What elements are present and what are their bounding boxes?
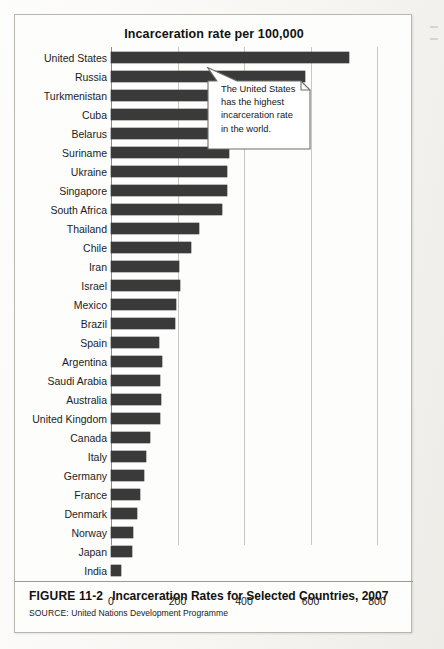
bar-row: Thailand [15, 221, 413, 240]
bar-row: South Africa [15, 202, 413, 221]
bar-thailand [111, 223, 199, 234]
bar-row: Canada [15, 430, 413, 449]
source-prefix: SOURCE: [29, 608, 69, 618]
category-label-argentina: Argentina [15, 356, 107, 369]
bar-united-kingdom [111, 413, 160, 424]
bar-spain [111, 337, 159, 348]
bar-saudi-arabia [111, 375, 160, 386]
page-edge-mark [430, 26, 438, 28]
bar-row: Australia [15, 392, 413, 411]
bar-row: India [15, 563, 413, 582]
category-label-saudi-arabia: Saudi Arabia [15, 375, 107, 388]
bar-ukraine [111, 166, 227, 177]
bar-row: Spain [15, 335, 413, 354]
category-label-brazil: Brazil [15, 318, 107, 331]
category-label-south-africa: South Africa [15, 204, 107, 217]
bar-germany [111, 470, 144, 481]
caption-divider [15, 581, 413, 582]
category-label-thailand: Thailand [15, 223, 107, 236]
bar-singapore [111, 185, 227, 196]
bar-south-africa [111, 204, 222, 215]
category-label-united-kingdom: United Kingdom [15, 413, 107, 426]
category-label-norway: Norway [15, 527, 107, 540]
category-label-israel: Israel [15, 280, 107, 293]
bar-iran [111, 261, 179, 272]
figure-caption-text: Incarceration Rates for Selected Countri… [112, 589, 388, 603]
bar-australia [111, 394, 161, 405]
bar-italy [111, 451, 146, 462]
bar-row: Germany [15, 468, 413, 487]
category-label-canada: Canada [15, 432, 107, 445]
category-label-russia: Russia [15, 71, 107, 84]
category-label-mexico: Mexico [15, 299, 107, 312]
category-label-denmark: Denmark [15, 508, 107, 521]
bar-denmark [111, 508, 137, 519]
bar-chile [111, 242, 191, 253]
category-label-spain: Spain [15, 337, 107, 350]
bar-row: Ukraine [15, 164, 413, 183]
figure-frame: Incarceration rate per 100,000 United St… [14, 14, 412, 633]
category-label-suriname: Suriname [15, 147, 107, 160]
bar-row: Chile [15, 240, 413, 259]
bar-brazil [111, 318, 175, 329]
bar-france [111, 489, 140, 500]
bar-norway [111, 527, 133, 538]
bar-united-states [111, 52, 349, 63]
category-label-germany: Germany [15, 470, 107, 483]
category-label-ukraine: Ukraine [15, 166, 107, 179]
category-label-cuba: Cuba [15, 109, 107, 122]
bar-india [111, 565, 121, 576]
bar-israel [111, 280, 180, 291]
caption-line: FIGURE 11-2Incarceration Rates for Selec… [29, 589, 407, 603]
bar-row: Saudi Arabia [15, 373, 413, 392]
bar-canada [111, 432, 150, 443]
chart-title: Incarceration rate per 100,000 [15, 27, 413, 41]
bar-mexico [111, 299, 176, 310]
figure-caption-block: FIGURE 11-2Incarceration Rates for Selec… [29, 589, 407, 618]
category-label-italy: Italy [15, 451, 107, 464]
bar-row: Norway [15, 525, 413, 544]
category-label-india: India [15, 565, 107, 578]
source-line: SOURCE: United Nations Development Progr… [29, 608, 407, 618]
callout-annotation: The United States has the highest incarc… [207, 67, 311, 151]
bar-row: Brazil [15, 316, 413, 335]
bar-row: Singapore [15, 183, 413, 202]
category-label-turkmenistan: Turkmenistan [15, 90, 107, 103]
bar-row: Iran [15, 259, 413, 278]
category-label-belarus: Belarus [15, 128, 107, 141]
figure-number: FIGURE 11-2 [29, 589, 103, 603]
chart-area: Incarceration rate per 100,000 United St… [15, 15, 413, 581]
source-text: United Nations Development Programme [71, 608, 228, 618]
bar-row: Israel [15, 278, 413, 297]
page-edge-mark [430, 38, 438, 40]
category-label-australia: Australia [15, 394, 107, 407]
bar-row: Mexico [15, 297, 413, 316]
bar-japan [111, 546, 132, 557]
bar-row: Japan [15, 544, 413, 563]
bar-row: Denmark [15, 506, 413, 525]
category-label-france: France [15, 489, 107, 502]
category-label-singapore: Singapore [15, 185, 107, 198]
category-label-iran: Iran [15, 261, 107, 274]
bar-row: Argentina [15, 354, 413, 373]
callout-text: The United States has the highest incarc… [221, 83, 301, 136]
bar-row: France [15, 487, 413, 506]
category-label-united-states: United States [15, 52, 107, 65]
category-label-chile: Chile [15, 242, 107, 255]
bar-row: United Kingdom [15, 411, 413, 430]
category-label-japan: Japan [15, 546, 107, 559]
bar-row: Italy [15, 449, 413, 468]
bar-argentina [111, 356, 162, 367]
